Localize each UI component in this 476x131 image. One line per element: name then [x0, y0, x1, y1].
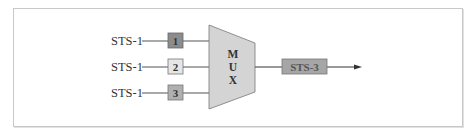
mux-block: M U X	[209, 25, 255, 109]
output-box: STS-3	[282, 59, 327, 74]
mux-diagram: STS-1 STS-1 STS-1 1 2 3 M U X STS-3	[0, 0, 476, 131]
frame-number-1: 1	[173, 35, 179, 47]
input-label-2: STS-1	[111, 60, 143, 74]
mux-letter-x: X	[229, 74, 238, 86]
mux-letter-m: M	[228, 48, 239, 60]
arrow-right-icon	[354, 65, 362, 70]
frame-box-2: 2	[168, 59, 183, 74]
frame-box-3: 3	[168, 85, 183, 100]
frame-number-2: 2	[173, 61, 179, 73]
frame-number-3: 3	[173, 87, 179, 99]
input-label-1: STS-1	[111, 34, 143, 48]
mux-letter-u: U	[229, 61, 238, 73]
frame-box-1: 1	[168, 33, 183, 48]
output-label: STS-3	[290, 61, 319, 73]
input-label-3: STS-1	[111, 86, 143, 100]
